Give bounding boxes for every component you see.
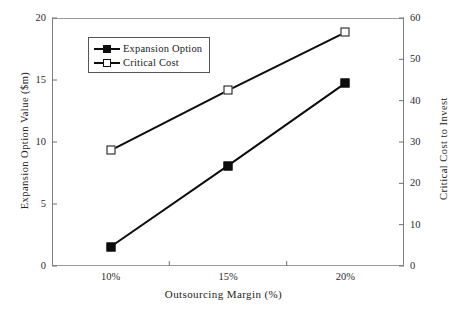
y-axis-left-tick-label: 10 <box>36 137 47 148</box>
y-axis-right-title: Critical Cost to Invest <box>438 49 449 249</box>
y-axis-right-tick-label: 60 <box>410 13 421 24</box>
y-axis-right-ticks: 0102030405060 <box>410 0 440 310</box>
legend-label: Critical Cost <box>123 57 179 68</box>
x-axis-tick-label: 10% <box>101 271 120 282</box>
legend-item-critical-cost: Critical Cost <box>94 55 202 69</box>
legend-label: Expansion Option <box>123 43 202 54</box>
data-point-marker <box>106 242 115 251</box>
y-axis-left-title: Expansion Option Value ($m) <box>19 31 30 251</box>
y-axis-left-tick-label: 15 <box>36 75 47 86</box>
y-axis-left-tick-label: 20 <box>36 13 47 24</box>
data-point-marker <box>224 86 233 95</box>
data-point-marker <box>224 161 233 170</box>
y-axis-left-tick-label: 0 <box>41 261 46 272</box>
x-axis-tick-label: 20% <box>336 271 355 282</box>
y-axis-right-tick-label: 10 <box>410 219 421 230</box>
y-axis-left-tick-label: 5 <box>41 199 46 210</box>
legend: Expansion Option Critical Cost <box>88 37 210 73</box>
data-point-marker <box>341 28 350 37</box>
x-axis-tick-label: 15% <box>218 271 237 282</box>
y-axis-right-tick-label: 20 <box>410 178 421 189</box>
x-axis-title: Outsourcing Margin (%) <box>0 288 447 300</box>
data-point-marker <box>106 146 115 155</box>
legend-swatch-filled-square-icon <box>94 43 120 54</box>
legend-item-expansion-option: Expansion Option <box>94 41 202 55</box>
y-axis-right-tick-label: 40 <box>410 95 421 106</box>
y-axis-right-tick-label: 50 <box>410 54 421 65</box>
legend-swatch-open-square-icon <box>94 57 120 68</box>
y-axis-right-tick-label: 0 <box>410 261 415 272</box>
data-point-marker <box>341 79 350 88</box>
y-axis-right-tick-label: 30 <box>410 137 421 148</box>
